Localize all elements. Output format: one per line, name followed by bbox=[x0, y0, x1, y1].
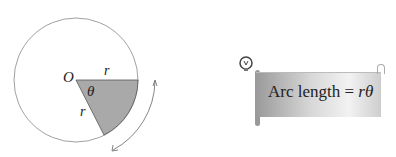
lightbulb-icon bbox=[238, 56, 254, 72]
formula-text: Arc length = rθ bbox=[268, 82, 373, 102]
circle-sector-diagram: O r r θ bbox=[0, 0, 240, 157]
radius-label-side: r bbox=[80, 104, 86, 119]
note-curl bbox=[377, 64, 385, 74]
center-label: O bbox=[63, 69, 74, 85]
angle-label: θ bbox=[87, 83, 95, 99]
radius-label-top: r bbox=[104, 63, 110, 78]
